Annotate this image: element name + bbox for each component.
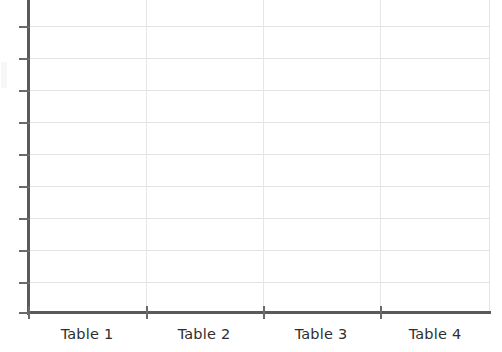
x-axis-tick [263, 306, 265, 319]
gridline-vertical [380, 0, 381, 313]
gridline-vertical [489, 0, 490, 313]
gridline-horizontal [29, 218, 490, 219]
x-axis-label-table-4: Table 4 [375, 325, 495, 343]
y-axis-tick [19, 186, 30, 188]
gridline-vertical [146, 0, 147, 313]
gridline-horizontal [29, 154, 490, 155]
x-axis-tick [380, 306, 382, 319]
x-axis-label-table-1: Table 1 [27, 325, 147, 343]
y-axis-tick [19, 58, 30, 60]
y-axis-tick [19, 282, 30, 284]
gridline-horizontal [29, 282, 490, 283]
y-axis-tick [19, 26, 30, 28]
x-axis-label-table-2: Table 2 [144, 325, 264, 343]
y-axis-tick [19, 122, 30, 124]
scan-artifact [1, 62, 7, 88]
y-axis-tick [19, 250, 30, 252]
gridline-vertical [263, 0, 264, 313]
chart-container: Table 1 Table 2 Table 3 Table 4 [0, 0, 502, 352]
gridline-horizontal [29, 26, 490, 27]
y-axis-tick [19, 154, 30, 156]
y-axis-tick [19, 90, 30, 92]
x-axis-line [27, 311, 491, 314]
x-axis-tick [28, 306, 30, 319]
gridline-horizontal [29, 90, 490, 91]
y-axis-tick [19, 218, 30, 220]
y-axis-line [27, 0, 30, 315]
gridline-horizontal [29, 58, 490, 59]
x-axis-tick [146, 306, 148, 319]
plot-area [29, 0, 490, 313]
x-axis-label-table-3: Table 3 [261, 325, 381, 343]
gridline-horizontal [29, 250, 490, 251]
gridline-horizontal [29, 186, 490, 187]
gridline-horizontal [29, 122, 490, 123]
